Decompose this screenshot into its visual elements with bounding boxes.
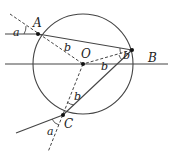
point-B [130,48,134,52]
label-B: B [147,51,157,65]
angle-arc-b-lower-at-B [119,55,122,60]
point-A [36,32,40,36]
label-C: C [64,117,73,131]
normal-line-C [48,64,83,152]
angle-arc-b-at-C [67,102,74,105]
angle-label-b-at-C: b [74,90,81,103]
angle-label-b-upper-at-B: b [123,49,130,62]
point-O [81,62,85,66]
angle-arc-a-at-A [24,26,26,34]
normal-line-A [10,14,83,64]
angle-label-b-at-A: b [64,41,71,54]
label-O: O [81,47,91,61]
label-A: A [32,16,42,30]
angle-label-a-at-A: a [13,26,20,39]
ray-diagram: A B C O a b b b b a [0,0,180,163]
angle-label-b-lower-at-B: b [101,60,108,73]
angle-label-a-at-C: a [47,125,54,138]
